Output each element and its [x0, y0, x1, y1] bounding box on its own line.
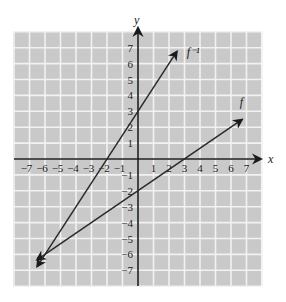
x-tick-label: 1 — [151, 162, 157, 174]
label-f-inverse: f⁻¹ — [187, 45, 200, 59]
x-tick-label: −7 — [21, 162, 33, 174]
y-tick-label: −4 — [121, 217, 133, 229]
y-tick-label: −1 — [121, 169, 133, 181]
x-tick-label: −3 — [83, 162, 95, 174]
y-tick-label: −7 — [121, 264, 133, 276]
y-tick-label: 1 — [128, 137, 134, 149]
x-tick-label: 7 — [244, 162, 250, 174]
x-tick-label: 6 — [228, 162, 234, 174]
x-tick-label: −6 — [36, 162, 48, 174]
y-axis-label: y — [133, 13, 140, 27]
function-inverse-graph: −7−6−5−4−3−2−11234567−7−6−5−4−3−2−112345… — [0, 0, 286, 302]
x-tick-label: 5 — [213, 162, 219, 174]
x-axis-label: x — [267, 152, 274, 166]
x-tick-label: 4 — [197, 162, 203, 174]
y-tick-label: 3 — [128, 105, 134, 117]
y-tick-label: 6 — [128, 58, 134, 70]
y-tick-label: 4 — [128, 89, 134, 101]
x-tick-label: −4 — [67, 162, 79, 174]
y-tick-label: −6 — [121, 248, 133, 260]
x-tick-label: −5 — [52, 162, 64, 174]
y-tick-label: −5 — [121, 233, 133, 245]
y-tick-label: 7 — [128, 42, 134, 54]
x-tick-label: 3 — [182, 162, 188, 174]
y-tick-label: 5 — [128, 74, 134, 86]
y-tick-label: −3 — [121, 201, 133, 213]
